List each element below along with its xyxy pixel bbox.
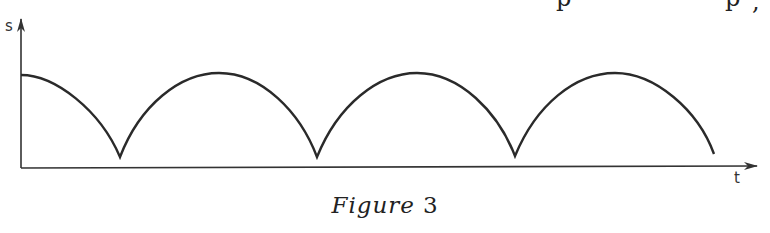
x-axis-label: t <box>734 171 740 186</box>
figure-3: p p , s t Figure3 <box>0 0 770 233</box>
caption-label: Figure <box>331 192 414 218</box>
y-axis-label: s <box>5 19 13 34</box>
caption-number: 3 <box>423 192 439 218</box>
s-vs-t-curve <box>21 73 714 157</box>
x-axis <box>21 166 757 168</box>
figure-caption: Figure3 <box>0 192 770 218</box>
